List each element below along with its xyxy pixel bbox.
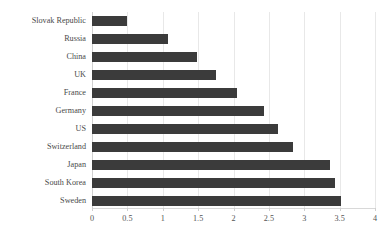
category-axis-labels: Slovak RepublicRussiaChinaUKFranceGerman… bbox=[0, 12, 86, 208]
x-axis-tick-mark bbox=[269, 208, 270, 211]
category-label: China bbox=[66, 48, 86, 66]
plot-area bbox=[92, 12, 375, 208]
category-label: UK bbox=[74, 66, 86, 84]
x-tick-label: 4 bbox=[373, 212, 377, 226]
bar[interactable] bbox=[92, 196, 341, 206]
bar-chart: Slovak RepublicRussiaChinaUKFranceGerman… bbox=[0, 0, 391, 241]
category-label: South Korea bbox=[45, 174, 86, 192]
x-axis-tick-mark bbox=[304, 208, 305, 211]
bar[interactable] bbox=[92, 16, 127, 26]
bar[interactable] bbox=[92, 52, 197, 62]
bar-row bbox=[92, 174, 375, 192]
bar-row bbox=[92, 30, 375, 48]
category-label: US bbox=[76, 120, 86, 138]
x-tick-label: 3 bbox=[302, 212, 306, 226]
category-label: Slovak Republic bbox=[32, 12, 86, 30]
category-label: France bbox=[64, 84, 86, 102]
x-tick-label: 2 bbox=[231, 212, 235, 226]
x-axis-tick-labels: 00.511.522.533.54 bbox=[0, 212, 391, 232]
x-tick-label: 1.5 bbox=[193, 212, 203, 226]
bar[interactable] bbox=[92, 34, 168, 44]
category-label: Germany bbox=[56, 102, 86, 120]
x-tick-label: 2.5 bbox=[264, 212, 274, 226]
x-tick-label: 3.5 bbox=[335, 212, 345, 226]
x-tick-label: 0.5 bbox=[122, 212, 132, 226]
x-axis-tick-mark bbox=[127, 208, 128, 211]
bar-row bbox=[92, 138, 375, 156]
bar-row bbox=[92, 120, 375, 138]
category-label: Japan bbox=[67, 156, 86, 174]
x-axis-tick-mark bbox=[198, 208, 199, 211]
bar[interactable] bbox=[92, 124, 278, 134]
bar[interactable] bbox=[92, 142, 293, 152]
x-axis-tick-mark bbox=[234, 208, 235, 211]
x-axis-tick-mark bbox=[163, 208, 164, 211]
bar[interactable] bbox=[92, 88, 237, 98]
x-axis-tick-mark bbox=[375, 208, 376, 211]
category-label: Russia bbox=[64, 30, 86, 48]
bar[interactable] bbox=[92, 106, 264, 116]
gridline bbox=[375, 12, 376, 208]
bar-row bbox=[92, 102, 375, 120]
bar[interactable] bbox=[92, 178, 335, 188]
category-label: Sweden bbox=[60, 192, 86, 210]
bar[interactable] bbox=[92, 160, 330, 170]
x-axis-tick-mark bbox=[340, 208, 341, 211]
bar-row bbox=[92, 12, 375, 30]
bar-row bbox=[92, 84, 375, 102]
bar-rows bbox=[92, 12, 375, 208]
x-tick-label: 0 bbox=[90, 212, 94, 226]
bar[interactable] bbox=[92, 70, 216, 80]
bar-row bbox=[92, 48, 375, 66]
bar-row bbox=[92, 66, 375, 84]
x-tick-label: 1 bbox=[161, 212, 165, 226]
bar-row bbox=[92, 156, 375, 174]
category-label: Switzerland bbox=[47, 138, 86, 156]
x-axis-tick-mark bbox=[92, 208, 93, 211]
